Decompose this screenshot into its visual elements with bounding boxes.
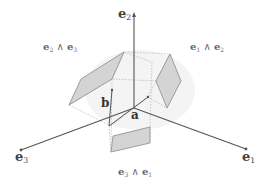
label-vector-a: a [131, 109, 139, 121]
bivector-diagram: e2 e3 e1 e2 ∧ e3 e1 ∧ e2 e3 ∧ e1 b a [0, 0, 267, 186]
label-e3-wedge-e1: e3 ∧ e1 [118, 167, 152, 178]
vector-a-tip-icon [147, 96, 149, 98]
arrow-e2-icon [132, 12, 136, 17]
vector-b-tip-icon [111, 89, 113, 91]
diagram-canvas [0, 0, 267, 186]
label-e3: e3 [15, 150, 28, 165]
label-e1: e1 [242, 150, 255, 165]
label-e1-wedge-e2: e1 ∧ e2 [190, 42, 224, 53]
label-e2-wedge-e3: e2 ∧ e3 [43, 42, 77, 53]
axes [21, 15, 246, 150]
label-e2: e2 [118, 7, 131, 22]
background-shade [85, 50, 195, 130]
plane-e3-e1 [111, 127, 150, 152]
label-vector-b: b [101, 97, 109, 109]
